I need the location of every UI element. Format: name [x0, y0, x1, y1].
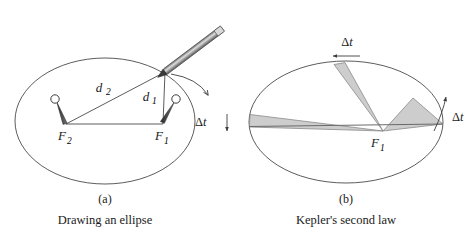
delta-top-label: Δt	[341, 35, 353, 49]
right-sector	[383, 98, 443, 131]
panel-b-diagram: Δt Δt Δt F 1 (b) Kepler's second law	[195, 35, 464, 227]
panel-a-caption: Drawing an ellipse	[58, 213, 153, 227]
delta-right-group: Δt	[434, 97, 464, 131]
curved-arrow-icon	[171, 74, 208, 95]
pushpin-f1-head	[172, 95, 180, 103]
label-d1-subscript: 1	[152, 96, 157, 106]
string-segment-d2	[66, 72, 165, 124]
label-f1-b-subscript: 1	[380, 143, 385, 153]
figure-root: d 2 d 1 F 2 F 1 (a) Drawing an ellipse	[0, 0, 476, 239]
label-d1-text: d	[143, 89, 150, 104]
delta-top-group: Δt	[333, 35, 360, 56]
left-sector	[250, 115, 384, 132]
label-f2-subscript: 2	[67, 136, 72, 146]
label-d2-text: d	[96, 80, 103, 95]
label-f2: F 2	[57, 128, 72, 146]
panel-a-diagram: d 2 d 1 F 2 F 1 (a) Drawing an ellipse	[15, 26, 224, 227]
label-d2: d 2	[96, 80, 111, 97]
label-f1-b: F 1	[370, 135, 385, 153]
pushpin-f2-stem	[57, 102, 68, 125]
curved-up-arrow-icon	[434, 97, 446, 131]
label-f1-b-text: F	[370, 135, 380, 150]
delta-left-group: Δt	[195, 114, 227, 131]
delta-right-label: Δt	[452, 110, 464, 124]
pencil-icon	[156, 26, 225, 80]
top-sector	[334, 63, 383, 131]
ellipse-outline-a	[15, 58, 195, 184]
string-triangle	[66, 72, 165, 124]
pushpin-f2-head	[51, 95, 59, 103]
pushpin-f2	[51, 95, 67, 125]
label-f1-a-subscript: 1	[164, 136, 169, 146]
label-d1: d 1	[143, 89, 157, 106]
delta-left-label: Δt	[195, 115, 207, 129]
panel-b-caption: Kepler's second law	[296, 213, 396, 227]
figure-canvas: d 2 d 1 F 2 F 1 (a) Drawing an ellipse	[0, 0, 476, 239]
pencil-body	[163, 26, 224, 75]
label-f1-a-text: F	[154, 128, 164, 143]
label-f2-text: F	[57, 128, 67, 143]
panel-a-tag: (a)	[98, 192, 111, 206]
label-d2-subscript: 2	[106, 87, 111, 97]
panel-b-tag: (b)	[339, 192, 353, 206]
label-f1-a: F 1	[154, 128, 169, 146]
pushpin-f1-stem	[160, 102, 174, 124]
